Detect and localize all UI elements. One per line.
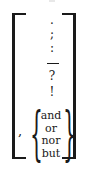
cropped-glyph-artifact	[49, 0, 55, 2]
question-mark: ?	[40, 70, 64, 82]
exclamation-mark: !	[40, 86, 64, 98]
right-curly-brace: }	[63, 108, 76, 160]
period-mark: .	[40, 14, 64, 26]
semicolon-mark: ;	[40, 28, 64, 40]
conjunction-but: but	[36, 148, 66, 161]
dash-mark	[47, 63, 59, 64]
conjunction-and: and	[36, 110, 66, 123]
comma-mark: ,	[18, 124, 22, 137]
conjunction-list: and or nor but	[36, 110, 66, 160]
conjunction-nor: nor	[36, 135, 66, 148]
colon-mark: :	[40, 42, 64, 54]
